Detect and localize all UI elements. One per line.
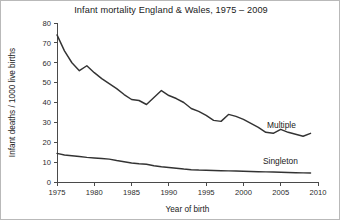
y-tick-label: 60 <box>43 59 51 68</box>
x-tick-label: 1980 <box>86 188 103 197</box>
series-group <box>57 35 311 173</box>
series-labels-group: MultipleSingleton <box>263 120 298 166</box>
y-tick-label: 80 <box>43 19 51 28</box>
y-tick-label: 50 <box>43 78 51 87</box>
y-tick-label: 40 <box>43 98 51 107</box>
y-tick-label: 20 <box>43 138 51 147</box>
x-tick-label: 2010 <box>310 188 327 197</box>
y-tick-label: 10 <box>43 158 51 167</box>
chart-figure: Infant mortality England & Wales, 1975 –… <box>0 0 340 220</box>
x-tick-label: 2000 <box>235 188 252 197</box>
y-tick-label: 0 <box>47 178 51 187</box>
series-label-singleton: Singleton <box>263 156 298 166</box>
x-tick-label: 2005 <box>272 188 289 197</box>
x-axis-title: Year of birth <box>166 205 210 214</box>
chart-plot-area: 0102030405060708019751980198519901995200… <box>1 1 340 220</box>
y-axis-title: Infant deaths / 1000 live births <box>8 48 17 157</box>
x-tick-label: 1990 <box>160 188 177 197</box>
y-tick-label: 30 <box>43 118 51 127</box>
x-tick-label: 1975 <box>49 188 66 197</box>
series-label-multiple: Multiple <box>267 120 296 130</box>
x-tick-label: 1995 <box>198 188 215 197</box>
x-tick-label: 1985 <box>123 188 140 197</box>
y-tick-label: 70 <box>43 39 51 48</box>
axes-group: 0102030405060708019751980198519901995200… <box>8 19 326 214</box>
